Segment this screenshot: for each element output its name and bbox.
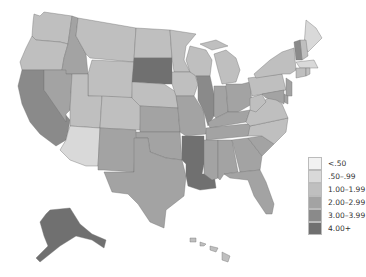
state-ny	[254, 48, 296, 78]
state-wi	[186, 46, 212, 76]
state-ks	[140, 106, 180, 132]
legend-swatch	[308, 170, 322, 183]
legend-item: .50–.99	[308, 170, 365, 183]
legend-label: .50–.99	[328, 172, 356, 181]
state-ri	[306, 68, 310, 76]
legend-item: <.50	[308, 157, 365, 170]
state-wa	[32, 12, 72, 44]
legend-label: 3.00–3.99	[328, 211, 365, 220]
state-ar	[182, 136, 204, 164]
state-nm	[98, 128, 136, 172]
state-ia	[172, 72, 198, 96]
state-fl	[224, 170, 274, 214]
legend-swatch	[308, 183, 322, 196]
legend-label: 1.00–1.99	[328, 185, 365, 194]
legend-item: 2.00–2.99	[308, 196, 365, 209]
state-ma	[296, 60, 318, 68]
state-ct	[296, 68, 306, 78]
legend-item: 4.00+	[308, 222, 365, 235]
state-ms	[204, 140, 218, 180]
state-ne	[132, 82, 178, 108]
legend-swatch	[308, 209, 322, 222]
legend-swatch	[308, 157, 322, 170]
legend-label: <.50	[328, 159, 346, 168]
us-choropleth-map	[0, 0, 366, 277]
state-hi	[190, 238, 230, 262]
state-de	[284, 94, 288, 104]
legend-label: 4.00+	[328, 224, 351, 233]
legend-item: 1.00–1.99	[308, 183, 365, 196]
state-nd	[134, 28, 172, 58]
legend-item: 3.00–3.99	[308, 209, 365, 222]
legend: <.50 .50–.99 1.00–1.99 2.00–2.99 3.00–3.…	[308, 157, 365, 235]
legend-label: 2.00–2.99	[328, 198, 365, 207]
state-ak	[36, 208, 106, 262]
legend-swatch	[308, 196, 322, 209]
state-oh	[226, 82, 252, 112]
state-nj	[286, 78, 292, 96]
state-sd	[132, 58, 172, 84]
legend-swatch	[308, 222, 322, 235]
state-wy	[88, 60, 134, 98]
